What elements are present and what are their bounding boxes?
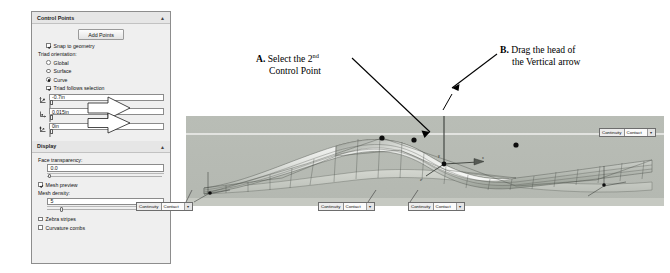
curvature-combs-label: Curvature combs <box>46 225 86 231</box>
continuity-value-2[interactable]: Contact <box>344 203 366 210</box>
continuity-value-4[interactable]: Contact <box>625 129 647 136</box>
mesh-preview-row[interactable]: Mesh preview <box>38 182 164 188</box>
continuity-callout-3[interactable]: Continuity Contact ▼ <box>408 202 465 211</box>
continuity-label-4: Continuity <box>600 129 625 136</box>
chevron-down-icon[interactable]: ▼ <box>366 203 374 210</box>
control-points-properties-panel: Control Points ▲ Add Points Snap to geom… <box>31 11 171 264</box>
triad-orientation-option-global[interactable]: Global <box>46 60 164 66</box>
triad-y-icon <box>38 108 49 119</box>
face-transparency-label: Face transparency: <box>38 157 164 163</box>
option-label-global: Global <box>54 60 69 66</box>
continuity-callout-2[interactable]: Continuity Contact ▼ <box>318 202 375 211</box>
continuity-callout-1[interactable]: Continuity Contact ▼ <box>136 202 193 211</box>
mesh-preview-checkbox[interactable] <box>38 182 43 187</box>
triad-x-icon <box>38 94 49 105</box>
control-points-section-header[interactable]: Control Points ▲ <box>32 12 170 24</box>
option-label-curve: Curve <box>54 77 68 83</box>
annotation-b-marker: B. <box>500 44 509 55</box>
radio-curve-icon[interactable] <box>46 77 51 82</box>
snap-to-geometry-label: Snap to geometry <box>54 43 95 49</box>
surface-geometry <box>186 116 664 206</box>
continuity-value-3[interactable]: Contact <box>434 203 456 210</box>
continuity-value-1[interactable]: Contact <box>162 203 184 210</box>
chevron-up-icon[interactable]: ▲ <box>160 15 165 21</box>
triad-z-icon <box>38 123 49 134</box>
continuity-label-1: Continuity <box>137 203 162 210</box>
curvature-combs-checkbox[interactable] <box>38 225 43 230</box>
radio-global-icon[interactable] <box>46 60 51 65</box>
triad-follows-selection-label: Triad follows selection <box>54 85 105 91</box>
control-points-section-body: Add Points Snap to geometry Triad orient… <box>32 24 170 139</box>
display-section-body: Face transparency: 0.0 Mesh preview Mesh… <box>32 153 170 237</box>
annotation-b-line2: the Vertical arrow <box>512 56 581 68</box>
coordinate-z-input[interactable]: 0in <box>49 123 164 130</box>
radio-surface-icon[interactable] <box>46 69 51 74</box>
coordinate-row-x: -0.7in <box>38 94 164 107</box>
coordinate-row-z: 0in <box>38 123 164 136</box>
mesh-density-label: Mesh density: <box>38 190 164 196</box>
annotation-a-line2: Control Point <box>269 65 321 77</box>
triad-orientation-option-curve[interactable]: Curve <box>46 77 164 83</box>
axis-label-x: x <box>482 156 484 160</box>
display-section-title: Display <box>37 143 56 149</box>
display-section-header[interactable]: Display ▲ <box>32 141 170 153</box>
chevron-down-icon[interactable]: ▼ <box>647 129 655 136</box>
zebra-stripes-checkbox[interactable] <box>38 217 43 222</box>
coordinate-y-input[interactable]: 0.015in <box>49 108 164 115</box>
annotation-a: A. Select the 2nd Control Point <box>256 50 321 77</box>
zebra-stripes-row[interactable]: Zebra stripes <box>38 216 164 222</box>
annotation-a-superscript: nd <box>313 52 319 59</box>
continuity-label-2: Continuity <box>319 203 344 210</box>
continuity-label-3: Continuity <box>409 203 434 210</box>
chevron-up-icon[interactable]: ▲ <box>160 144 165 150</box>
triad-orientation-option-surface[interactable]: Surface <box>46 68 164 74</box>
snap-to-geometry-checkbox[interactable] <box>46 43 51 48</box>
coordinate-y-slider[interactable] <box>49 114 51 122</box>
control-points-section-title: Control Points <box>37 15 74 21</box>
continuity-callout-4[interactable]: Continuity Contact ▼ <box>599 128 656 137</box>
axis-label-y: y <box>438 154 440 158</box>
annotation-a-marker: A. <box>256 53 265 64</box>
coordinate-z-slider[interactable] <box>49 129 51 137</box>
annotation-b-line1: Drag the head of <box>511 44 575 55</box>
face-transparency-input[interactable]: 0.0 <box>47 164 164 172</box>
coordinate-x-slider[interactable] <box>49 100 51 108</box>
annotation-b: B. Drag the head of the Vertical arrow <box>500 44 581 68</box>
axis-label-z: z <box>420 178 422 182</box>
chevron-down-icon[interactable]: ▼ <box>456 203 464 210</box>
mesh-preview-label: Mesh preview <box>46 182 78 188</box>
3d-viewport[interactable]: y x z <box>186 116 664 206</box>
face-transparency-slider[interactable] <box>47 173 164 179</box>
coordinate-row-y: 0.015in <box>38 108 164 121</box>
triad-follows-selection-checkbox[interactable] <box>46 86 51 91</box>
annotation-a-line1: Select the 2 <box>268 53 313 64</box>
add-points-button[interactable]: Add Points <box>78 29 124 40</box>
curvature-combs-row[interactable]: Curvature combs <box>38 225 164 231</box>
zebra-stripes-label: Zebra stripes <box>46 216 76 222</box>
snap-to-geometry-row[interactable]: Snap to geometry <box>46 43 164 49</box>
triad-follows-selection-row[interactable]: Triad follows selection <box>46 85 164 91</box>
option-label-surface: Surface <box>54 68 72 74</box>
triad-orientation-label: Triad orientation: <box>38 51 164 57</box>
coordinate-x-input[interactable]: -0.7in <box>49 94 164 101</box>
chevron-down-icon[interactable]: ▼ <box>184 203 192 210</box>
